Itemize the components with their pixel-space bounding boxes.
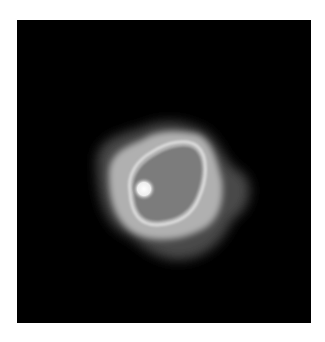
bright-spot (132, 177, 156, 201)
blob-image (17, 20, 311, 323)
image-frame (17, 20, 311, 323)
